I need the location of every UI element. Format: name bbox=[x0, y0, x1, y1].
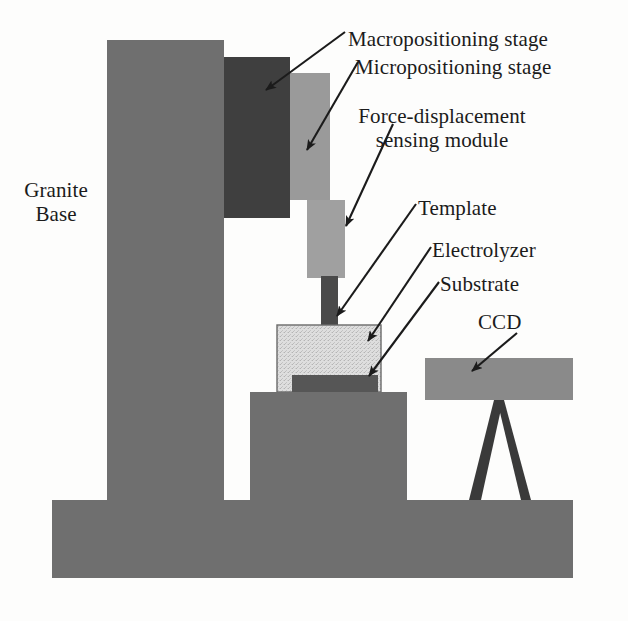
label-ccd: CCD bbox=[478, 310, 521, 334]
label-electrolyzer: Electrolyzer bbox=[432, 238, 536, 262]
label-substrate: Substrate bbox=[440, 272, 519, 296]
label-force-sensing-module: Force-displacement sensing module bbox=[357, 104, 527, 153]
part-force-sensing-module bbox=[307, 200, 345, 278]
arrow-electrolyzer bbox=[368, 247, 431, 341]
label-granite-base-line1: Granite bbox=[8, 178, 104, 202]
label-force-module-line2: sensing module bbox=[357, 128, 527, 152]
label-granite-base: Granite Base bbox=[8, 178, 104, 227]
apparatus-schematic-figure: Granite Base Macropositioning stage Micr… bbox=[0, 0, 628, 621]
part-specimen-pedestal bbox=[250, 392, 407, 501]
part-granite-base-plate bbox=[52, 500, 573, 578]
part-ccd-stand-left-leg bbox=[469, 400, 503, 500]
schematic-canvas bbox=[0, 0, 628, 621]
part-ccd-stand-right-leg bbox=[497, 400, 531, 500]
part-micropositioning-stage bbox=[290, 73, 330, 200]
label-template: Template bbox=[418, 196, 497, 220]
label-micropositioning-stage: Micropositioning stage bbox=[355, 55, 551, 79]
part-substrate-plate bbox=[292, 375, 378, 392]
part-ccd-body bbox=[425, 358, 573, 400]
part-macropositioning-stage bbox=[224, 57, 290, 218]
label-macropositioning-stage: Macropositioning stage bbox=[348, 27, 548, 51]
label-force-module-line1: Force-displacement bbox=[357, 104, 527, 128]
part-granite-column bbox=[107, 40, 224, 500]
label-granite-base-line2: Base bbox=[8, 202, 104, 226]
